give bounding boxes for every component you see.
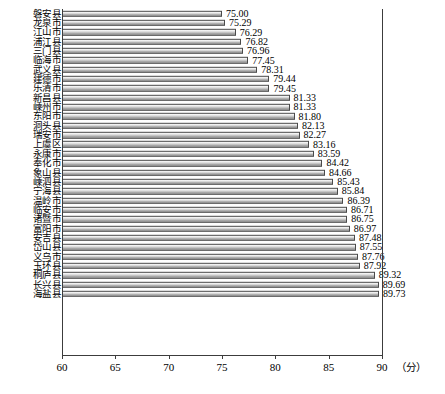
- bar-track: 89.69: [62, 281, 382, 287]
- bar: [62, 225, 350, 231]
- bar-track: 75.00: [62, 10, 382, 16]
- bar-track: 82.27: [62, 132, 382, 138]
- bar-row: 浦江县76.82: [0, 37, 445, 46]
- x-axis-unit-label: （分）: [396, 362, 426, 373]
- bar-track: 83.59: [62, 151, 382, 157]
- bar-row: 临海市77.45: [0, 56, 445, 65]
- x-axis-tick-label: 90: [377, 362, 388, 373]
- bar-track: 89.73: [62, 291, 382, 297]
- bar-track: 81.33: [62, 104, 382, 110]
- bar-row: 嵊州市81.33: [0, 102, 445, 111]
- bar-track: 86.97: [62, 225, 382, 231]
- bar-row: 建德市79.44: [0, 74, 445, 83]
- x-axis-tick: [329, 355, 330, 359]
- bar-track: 76.96: [62, 48, 382, 54]
- bar-row: 桐庐县89.32: [0, 271, 445, 280]
- bar: [62, 141, 309, 147]
- bar: [62, 216, 347, 222]
- bar-track: 76.82: [62, 39, 382, 45]
- bar-track: 86.75: [62, 216, 382, 222]
- bar-value-label: 89.73: [379, 289, 406, 299]
- bar-track: 77.45: [62, 57, 382, 63]
- bar: [62, 67, 257, 73]
- bar-row: 磐安县75.00: [0, 9, 445, 18]
- bar-row: 东阳市81.80: [0, 112, 445, 121]
- bar-track: 82.13: [62, 123, 382, 129]
- x-axis-tick-label: 80: [270, 362, 281, 373]
- bar-row: 新昌县81.33: [0, 93, 445, 102]
- bar: [62, 132, 300, 138]
- x-axis-tick: [115, 355, 116, 359]
- bar-row: 温岭市86.39: [0, 196, 445, 205]
- bar-track: 87.55: [62, 244, 382, 250]
- bar-track: 89.32: [62, 272, 382, 278]
- bar-row: 三门县76.96: [0, 46, 445, 55]
- x-axis-tick: [169, 355, 170, 359]
- bar-track: 87.76: [62, 253, 382, 259]
- bar-row: 瑞安市82.27: [0, 130, 445, 139]
- bar-track: 79.44: [62, 76, 382, 82]
- bar-row: 奉化市84.42: [0, 159, 445, 168]
- x-axis-tick: [275, 355, 276, 359]
- bar: [62, 48, 243, 54]
- bar: [62, 253, 358, 259]
- bar-track: 87.92: [62, 263, 382, 269]
- bar-track: 81.80: [62, 113, 382, 119]
- bar-track: 75.29: [62, 20, 382, 26]
- bar: [62, 113, 295, 119]
- bar: [62, 20, 225, 26]
- bar: [62, 29, 236, 35]
- bar: [62, 263, 360, 269]
- bar: [62, 235, 355, 241]
- bar-row: 诸暨市86.75: [0, 215, 445, 224]
- bar: [62, 123, 298, 129]
- bars-container: 磐安县75.00龙泉市75.29江山市76.29浦江县76.82三门县76.96…: [0, 9, 445, 355]
- x-axis-tick-label: 60: [57, 362, 68, 373]
- y-axis-line: [62, 9, 63, 355]
- bar-track: 81.33: [62, 95, 382, 101]
- bar-row: 嵊泗县85.43: [0, 177, 445, 186]
- bar-track: 84.66: [62, 169, 382, 175]
- bar-track: 84.42: [62, 160, 382, 166]
- bar-track: 85.43: [62, 179, 382, 185]
- bar-track: 76.29: [62, 29, 382, 35]
- bar: [62, 281, 379, 287]
- bar-track: 78.31: [62, 67, 382, 73]
- bar: [62, 151, 314, 157]
- x-axis-tick-label: 85: [323, 362, 334, 373]
- bar-row: 临安市86.71: [0, 205, 445, 214]
- plot-right-border: [382, 9, 383, 355]
- x-axis-tick-label: 75: [217, 362, 228, 373]
- bar-row: 江山市76.29: [0, 28, 445, 37]
- bar-track: 85.84: [62, 188, 382, 194]
- bar: [62, 179, 333, 185]
- bar: [62, 39, 241, 45]
- bar: [62, 57, 248, 63]
- bar-row: 象山县84.66: [0, 168, 445, 177]
- bar-row: 宁海县85.84: [0, 187, 445, 196]
- horizontal-bar-chart: 磐安县75.00龙泉市75.29江山市76.29浦江县76.82三门县76.96…: [0, 0, 445, 394]
- bar-row: 上虞区83.16: [0, 140, 445, 149]
- bar: [62, 244, 356, 250]
- bar: [62, 272, 375, 278]
- bar-row: 永康市83.59: [0, 149, 445, 158]
- x-axis-tick-label: 65: [110, 362, 121, 373]
- x-axis-tick-label: 70: [163, 362, 174, 373]
- bar: [62, 104, 290, 110]
- bar-row: 长兴县89.69: [0, 280, 445, 289]
- bar: [62, 10, 222, 16]
- bar: [62, 169, 325, 175]
- bar-track: 86.39: [62, 197, 382, 203]
- x-axis-tick: [382, 355, 383, 359]
- bar-track: 87.48: [62, 235, 382, 241]
- bar: [62, 291, 379, 297]
- bar: [62, 76, 269, 82]
- bar: [62, 188, 338, 194]
- x-axis-tick: [222, 355, 223, 359]
- bar: [62, 197, 343, 203]
- bar-row: 乐清市79.45: [0, 84, 445, 93]
- bar-track: 79.45: [62, 85, 382, 91]
- bar-row: 武义县78.31: [0, 65, 445, 74]
- bar-track: 83.16: [62, 141, 382, 147]
- bar: [62, 85, 269, 91]
